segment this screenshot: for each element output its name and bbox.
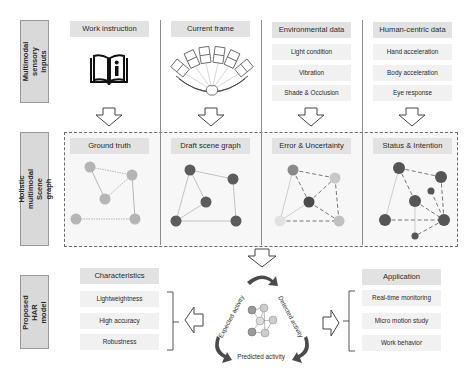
status-intention-header: Status & Intention <box>373 138 452 154</box>
ground-truth-graph <box>64 155 164 235</box>
human-centric-item: Eye response <box>373 85 452 101</box>
left-arrow-icon <box>184 306 204 334</box>
book-info-icon <box>88 52 130 88</box>
characteristic-item: Lightweightness <box>80 291 159 307</box>
row-label-scene-graph: Holistic multimodal Scene graph <box>20 132 49 246</box>
work-instruction-header: Work instruction <box>70 21 149 37</box>
down-arrow-icon <box>95 107 123 127</box>
environmental-item: Light condition <box>272 44 351 60</box>
multi-camera-array-icon <box>170 46 254 98</box>
bracket-right-icon <box>166 291 180 353</box>
row-label-inputs: Multimodal sensory inputs <box>20 20 49 103</box>
down-arrow-icon <box>197 107 225 127</box>
row-label-inputs-text: Multimodal sensory inputs <box>21 42 48 82</box>
human-centric-item: Hand acceleration <box>373 44 452 60</box>
down-arrow-icon <box>297 107 325 127</box>
right-arrow-icon <box>322 309 340 337</box>
characteristic-item: High accuracy <box>80 313 159 329</box>
error-uncertainty-graph <box>262 155 362 235</box>
environmental-item: Vibration <box>272 65 351 81</box>
application-item: Real-time monitoring <box>362 290 441 306</box>
status-intention-graph <box>363 155 463 240</box>
application-header: Application <box>362 269 441 285</box>
environmental-data-header: Environmental data <box>272 22 351 38</box>
predicted-activity-label: Predicted activity <box>226 353 296 360</box>
down-arrow-icon <box>247 248 277 268</box>
row-label-har-text: Proposed HAR model <box>21 295 48 330</box>
current-frame-header: Current frame <box>171 21 250 37</box>
application-item: Work behavior <box>362 335 441 351</box>
row-label-har: Proposed HAR model <box>20 275 49 349</box>
characteristics-header: Characteristics <box>80 268 159 284</box>
environmental-item: Shade & Occlusion <box>272 85 351 101</box>
draft-scene-graph <box>161 155 261 235</box>
application-item: Micro motion study <box>362 313 441 329</box>
human-centric-item: Body acceleration <box>373 65 452 81</box>
characteristic-item: Robustness <box>80 334 159 350</box>
row-label-scene-graph-text: Holistic multimodal Scene graph <box>17 169 53 209</box>
down-arrow-icon <box>398 107 426 127</box>
bracket-left-icon <box>342 290 356 352</box>
human-centric-data-header: Human-centric data <box>373 22 452 38</box>
error-uncertainty-header: Error & Uncertainty <box>272 138 351 154</box>
ground-truth-header: Ground truth <box>70 138 149 154</box>
draft-scene-graph-header: Draft scene graph <box>171 138 250 154</box>
